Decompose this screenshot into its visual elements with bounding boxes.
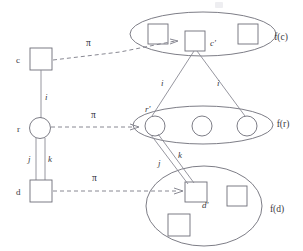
target-edge-j [151,135,188,184]
label-pi-d: π [92,173,97,183]
label-node-r: r [17,124,20,134]
target-edge-k [158,134,194,183]
label-set-f-r: f(r) [277,119,290,130]
f-d-member-3[interactable] [168,214,190,236]
label-target-edge-j: j [157,158,161,168]
label-node-d-prime: d' [202,200,210,210]
f-r-member-1-r-prime[interactable] [145,116,165,136]
label-target-edge-i-left: i [161,78,164,88]
f-d-member-2[interactable] [227,186,247,206]
label-set-f-d: f(d) [270,204,284,215]
diagram-canvas: c r d i j k π π π c' r' d' i i j k f(c) … [0,0,303,251]
label-target-edge-i-right: i [217,78,220,88]
source-node-r[interactable] [30,118,51,139]
label-pi-r: π [91,110,96,120]
f-r-member-3[interactable] [237,116,257,136]
ellipse-f-c[interactable] [130,12,276,56]
label-node-c: c [16,55,20,65]
source-node-c[interactable] [30,48,52,70]
label-pi-c: π [86,38,91,48]
target-set-f-c-group [130,12,276,56]
label-set-f-c: f(c) [274,32,288,43]
source-node-d[interactable] [30,180,52,202]
label-source-edge-j: j [27,154,31,164]
label-target-edge-k: k [178,150,183,160]
f-r-member-2[interactable] [192,116,212,136]
diagram-svg: c r d i j k π π π c' r' d' i i j k f(c) … [0,0,303,251]
mapping-arrows-group [51,39,183,194]
label-node-d: d [16,187,21,197]
f-d-member-1-d-prime[interactable] [185,182,207,202]
source-graph-group [30,48,53,202]
label-node-c-prime: c' [210,38,217,48]
f-c-member-3[interactable] [238,24,258,44]
f-c-member-2-c-prime[interactable] [185,31,205,51]
f-c-member-1[interactable] [148,24,168,44]
label-source-edge-k: k [48,154,53,164]
label-source-edge-i: i [45,92,48,102]
